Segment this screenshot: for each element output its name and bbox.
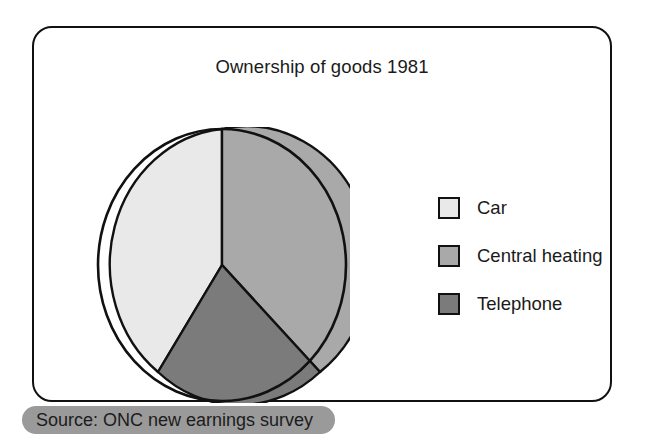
chart-title: Ownership of goods 1981	[34, 56, 610, 78]
pie-chart-svg	[96, 127, 350, 403]
legend-swatch-telephone	[438, 293, 460, 315]
legend-swatch-car	[438, 197, 460, 219]
source-note-banner: Source: ONC new earnings survey	[22, 406, 335, 434]
chart-frame: Ownership of goods 1981 Car Central heat…	[32, 26, 612, 402]
legend-swatch-central-heating	[438, 245, 460, 267]
legend-label-central-heating: Central heating	[477, 247, 602, 266]
legend-label-telephone: Telephone	[477, 295, 562, 314]
pie-chart	[96, 127, 350, 403]
legend-item-telephone[interactable]: Telephone	[438, 292, 638, 316]
legend-label-car: Car	[477, 199, 507, 218]
legend-item-central-heating[interactable]: Central heating	[438, 244, 638, 268]
chart-legend: Car Central heating Telephone	[438, 196, 638, 316]
legend-item-car[interactable]: Car	[438, 196, 638, 220]
